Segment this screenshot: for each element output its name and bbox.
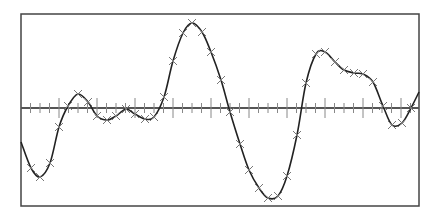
x-marker-icon [160,93,168,101]
x-marker-icon [46,159,54,167]
x-marker-icon [198,28,206,36]
x-marker-icon [255,184,263,192]
x-marker-icon [150,113,158,121]
x-marker-icon [312,50,320,58]
x-marker-icon [207,48,215,56]
x-marker-icon [398,119,406,127]
line-chart [0,0,435,217]
x-marker-icon [340,66,348,74]
x-marker-icon [217,76,225,84]
x-marker-icon [27,164,35,172]
x-marker-icon [388,121,396,129]
x-marker-icon [112,112,120,120]
x-marker-icon [274,192,282,200]
x-axis [21,98,419,118]
x-marker-icon [245,166,253,174]
x-marker-icon [236,140,244,148]
x-marker-icon [369,78,377,86]
x-marker-icon [331,58,339,66]
x-marker-icon [283,172,291,180]
x-marker-icon [179,29,187,37]
x-marker-icon [321,48,329,56]
